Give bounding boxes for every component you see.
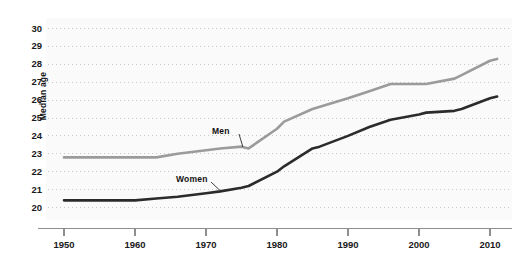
x-tick-label: 1960 <box>105 240 165 250</box>
series-label-women: Women <box>176 174 208 184</box>
x-tick-label: 2010 <box>460 240 520 250</box>
x-tick-label: 1970 <box>176 240 236 250</box>
x-tick-label: 1980 <box>247 240 307 250</box>
x-tick-label: 1990 <box>318 240 378 250</box>
x-tick-label: 1950 <box>34 240 94 250</box>
x-tick-label: 2000 <box>389 240 449 250</box>
x-axis-tick-labels: 1950196019701980199020002010 <box>0 0 527 263</box>
chart-container: Median age 2021222324252627282930 195019… <box>0 0 527 263</box>
series-label-men: Men <box>212 126 230 136</box>
